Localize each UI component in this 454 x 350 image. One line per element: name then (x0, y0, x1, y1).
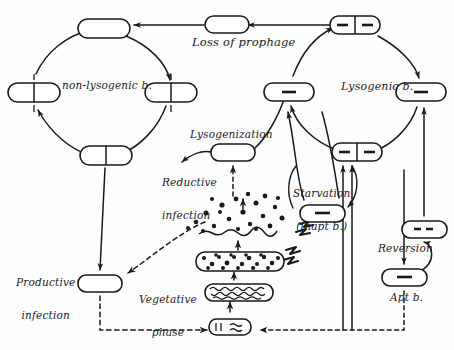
cell-apt-bacteria (382, 269, 427, 286)
label-loss-of-prophage: Loss of prophage (192, 36, 296, 48)
label-starvation-line1: Starvation (293, 188, 351, 199)
label-starvation: Starvation (inapt b.) (293, 166, 351, 243)
cell-non-lysogenic-left-dividing (8, 74, 60, 112)
cell-lysogenic-top-dividing (330, 16, 380, 34)
label-vegetative-phase-line2: phase (139, 327, 197, 338)
cell-packed-with-phage (196, 252, 284, 271)
cell-lysogenization (211, 144, 255, 161)
label-lysogenization: Lysogenization (190, 129, 273, 140)
label-vegetative-phase: Vegetative phase (139, 272, 197, 349)
label-lysogenic-b: Lysogenic b. (341, 81, 413, 93)
label-productive-infection-line2: infection (16, 310, 76, 321)
label-reductive-infection: Reductive infection (162, 155, 217, 232)
label-reductive-infection-line1: Reductive (162, 177, 217, 188)
cell-infected-with-phage (209, 319, 251, 335)
label-starvation-line2: (inapt b.) (293, 221, 351, 232)
cell-reversion (402, 221, 447, 238)
phage-lifecycle-diagram: Loss of prophage non-lysogenic b. Lysoge… (0, 0, 454, 350)
label-productive-infection: Productive infection (16, 255, 76, 332)
cell-loss-of-prophage (205, 16, 249, 33)
to-productive-arrow (100, 168, 105, 270)
cell-non-lysogenic-bottom-dividing (80, 146, 132, 165)
apt-to-bottom-dashed (260, 291, 404, 330)
cell-replicating-dna (205, 284, 273, 301)
label-non-lysogenic-b: non-lysogenic b. (62, 80, 152, 91)
label-reductive-infection-line2: infection (162, 210, 217, 221)
cell-productive-infection (78, 275, 122, 292)
label-apt-b: Apt b. (390, 292, 423, 303)
cell-non-lysogenic-right-dividing (145, 74, 197, 112)
lightning-bolt-icon-2 (283, 247, 300, 264)
label-vegetative-phase-line1: Vegetative (139, 294, 197, 305)
cell-lysogenic-bottom-dividing (332, 143, 382, 161)
cell-non-lysogenic-top (78, 19, 130, 38)
cell-lysogenic-left (264, 83, 314, 101)
label-productive-infection-line1: Productive (16, 277, 76, 288)
label-reversion: Reversion (378, 243, 433, 254)
